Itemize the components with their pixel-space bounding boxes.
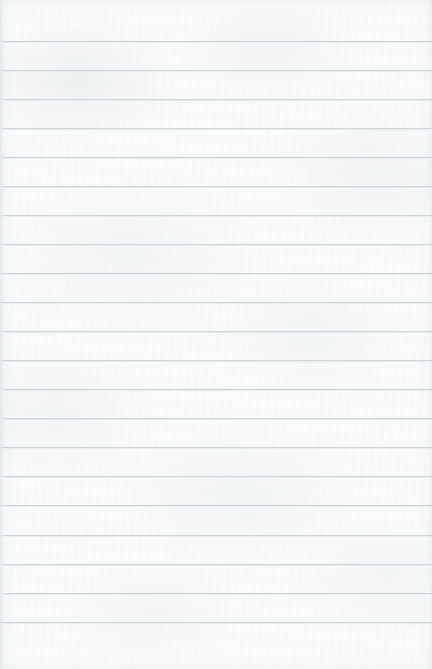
lined-paper-sheet: Blank ruled paper sheet bbox=[0, 0, 432, 669]
sheet-left-edge bbox=[0, 0, 1, 669]
paper-background bbox=[0, 0, 432, 669]
